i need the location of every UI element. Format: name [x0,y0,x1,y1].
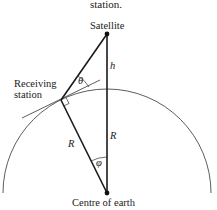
phi-label: φ [96,157,102,168]
line-of-sight [61,34,107,100]
satellite-label: Satellite [90,20,124,31]
centre-point [105,191,110,196]
caption-fragment: station. [90,0,122,10]
R-slant-label: R [68,138,74,149]
R-vertical-label: R [110,130,116,141]
theta-label: θ [78,75,83,86]
right-angle-marker [64,98,70,107]
centre-of-earth-label: Centre of earth [72,197,135,208]
satellite-point [105,32,110,37]
receiving-station-label-line1: Receiving [14,78,57,89]
satellite-geometry-diagram [0,0,217,210]
h-label: h [110,60,115,71]
receiving-station-label-line2: station [14,89,42,100]
